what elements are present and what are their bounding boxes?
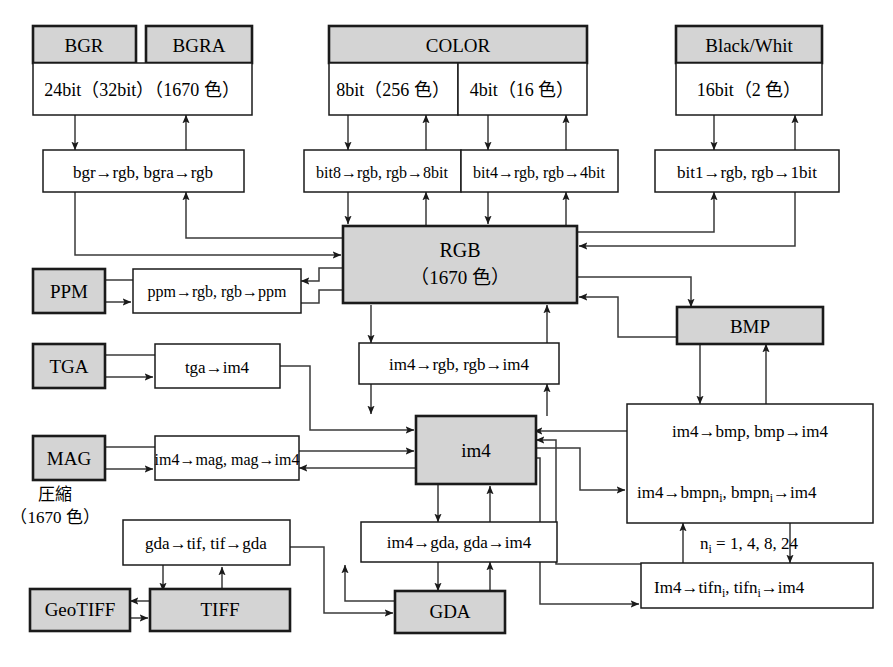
label-color-8bit: 8bit（256 色） [336, 80, 450, 100]
label-bmp-fn-line1: im4→bmp, bmp→im4 [672, 422, 828, 441]
label-mag-fn: im4→mag, mag→im4 [155, 451, 300, 469]
label-bw-depth: 16bit（2 色） [697, 80, 802, 100]
label-bgr-depth: 24bit（32bit）（1670 色） [44, 80, 240, 100]
label-ppm-fn: ppm→rgb, rgb→ppm [148, 283, 288, 301]
label-rgb: RGB [439, 239, 480, 261]
label-bgr-fn: bgr→rgb, bgra→rgb [73, 163, 213, 182]
label-tga: TGA [49, 356, 88, 377]
label-mag: MAG [47, 448, 92, 469]
label-bgr: BGR [64, 35, 103, 56]
label-compression: 圧縮 [38, 485, 72, 504]
label-ppm: PPM [50, 281, 88, 302]
label-im4: im4 [461, 440, 491, 461]
label-bmp: BMP [730, 316, 770, 337]
label-gda: GDA [429, 601, 470, 622]
label-rgb-colors: （1670 色） [410, 267, 510, 288]
label-bit4-fn: bit4→rgb, rgb→4bit [473, 164, 605, 182]
edge-rgb-to-bmp [577, 277, 691, 307]
edge-bgrfn-to-rgb [75, 190, 341, 255]
label-bit1-fn: bit1→rgb, rgb→1bit [677, 163, 817, 182]
label-ni-values: ni = 1, 4, 8, 24 [700, 534, 798, 556]
label-tga-fn: tga→im4 [185, 358, 250, 377]
label-blackwhite: Black/Whit [705, 35, 793, 56]
label-tifn-fn: Im4→tifni, tifni→im4 [654, 578, 805, 600]
label-compression-colors: （1670 色） [10, 508, 99, 527]
label-color: COLOR [426, 35, 491, 56]
diagram-canvas: BGR BGRA 24bit（32bit）（1670 色） COLOR 8bit… [0, 0, 893, 667]
label-tif-fn: gda→tif, tif→gda [145, 534, 267, 553]
label-bmp-fn-line2: im4→bmpni, bmpni→im4 [637, 483, 817, 505]
edge-im4-to-bmpfn [536, 448, 625, 490]
edge-gda-to-tiffn [345, 565, 395, 601]
label-im4rgb-fn: im4→rgb, rgb→im4 [389, 355, 530, 374]
box-rgb[interactable] [343, 226, 577, 303]
label-gda-fn: im4→gda, gda→im4 [387, 533, 532, 552]
edge-bit1fn-to-rgb [579, 190, 795, 246]
edge-rgb-to-bit1fn [577, 192, 714, 232]
label-bit8-fn: bit8→rgb, rgb→8bit [316, 164, 448, 182]
label-tiff: TIFF [200, 599, 239, 620]
edge-bmp-to-rgb [579, 297, 677, 337]
edge-rgb-to-bgrfn [186, 192, 343, 238]
label-color-4bit: 4bit（16 色） [470, 80, 575, 100]
label-bgra: BGRA [173, 35, 226, 56]
label-geotiff: GeoTIFF [45, 599, 116, 620]
